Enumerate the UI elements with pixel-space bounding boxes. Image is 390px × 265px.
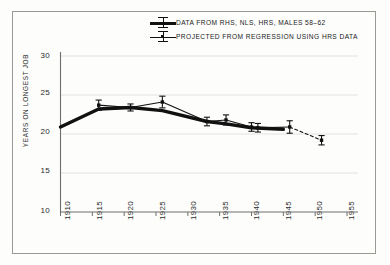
chart-figure: DATA FROM RHS, NLS, HRS, MALES 58–62 PRO… — [0, 0, 390, 265]
x-tick-marks — [61, 212, 348, 216]
plot-canvas — [0, 0, 390, 265]
gridlines — [61, 56, 359, 173]
series-projected-line — [99, 102, 290, 128]
axis-lines — [61, 52, 359, 212]
